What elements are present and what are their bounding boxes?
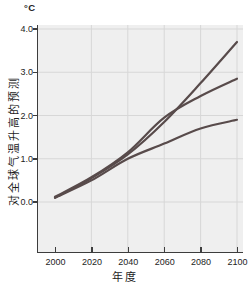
x-tick-label: 2020 [77,257,107,267]
x-tick-label: 2080 [186,257,216,267]
plot-area [37,25,243,253]
y-axis-tick [33,115,38,117]
y-axis-unit-label: °C [24,2,36,13]
y-tick-label: 4.0 [0,24,33,34]
y-axis-tick [33,158,38,160]
x-axis-tick [128,247,130,252]
x-axis-tick [55,247,57,252]
y-axis-tick [33,201,38,203]
x-tick-label: 2060 [150,257,180,267]
y-tick-label: 2.0 [0,111,33,121]
x-axis-tick [237,247,239,252]
x-axis-tick [164,247,166,252]
y-axis-tick [33,72,38,74]
y-tick-label: 3.0 [0,67,33,77]
x-tick-label: 2040 [113,257,143,267]
chart-canvas [38,25,243,252]
x-axis-tick [91,247,93,252]
y-tick-label: 1.0 [0,154,33,164]
x-axis-title: 年度 [0,268,249,284]
x-tick-label: 2100 [223,257,250,267]
y-axis-title: 对全球气温升高的预测 [5,70,19,212]
x-axis-tick [200,247,202,252]
high-emission-projection-curve [55,42,237,198]
y-tick-label: 0.0 [0,197,33,207]
y-axis-tick [33,28,38,30]
temperature-projection-chart: °C 对全球气温升高的预测 0.01.02.03.04.020002020204… [0,0,249,291]
x-tick-label: 2000 [41,257,71,267]
